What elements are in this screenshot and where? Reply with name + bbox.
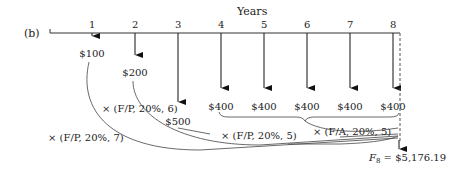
factor-fp7: × (F/P, 20%, 7): [48, 132, 124, 143]
year-label-5: 5: [261, 19, 267, 30]
year-labels: 12345678: [89, 19, 396, 30]
cash-flow-label-year-5: $400: [251, 101, 276, 112]
factor-fp6: × (F/P, 20%, 6): [102, 103, 178, 114]
cash-flow-label-year-8: $400: [380, 101, 405, 112]
year-label-4: 4: [218, 19, 224, 30]
cash-flow-diagram: (b) Years 12345678 $100$200$500$400$400$…: [0, 0, 451, 174]
future-value-label: F8 = $5,176.19: [368, 152, 446, 165]
year-label-7: 7: [347, 19, 353, 30]
year-label-1: 1: [89, 19, 95, 30]
factor-fp5: × (F/P, 20%, 5): [221, 130, 297, 141]
year-label-2: 2: [132, 19, 138, 30]
annuity-brace: [219, 112, 399, 121]
cash-flow-label-year-4: $400: [208, 101, 233, 112]
year-label-8: 8: [390, 19, 396, 30]
cash-flow-label-year-6: $400: [294, 101, 319, 112]
cash-flow-label-year-2: $200: [122, 67, 147, 78]
cash-flow-label-year-1: $100: [79, 48, 104, 59]
fv-value: = $5,176.19: [380, 152, 446, 163]
factor-fa5: × (F/A, 20%, 5): [313, 126, 391, 137]
panel-label: (b): [24, 27, 40, 40]
year-label-6: 6: [304, 19, 310, 30]
cash-flow-label-year-7: $400: [337, 101, 362, 112]
axis-title: Years: [236, 5, 268, 18]
cash-flow-label-year-3: $500: [165, 116, 190, 127]
year-label-3: 3: [175, 19, 181, 30]
